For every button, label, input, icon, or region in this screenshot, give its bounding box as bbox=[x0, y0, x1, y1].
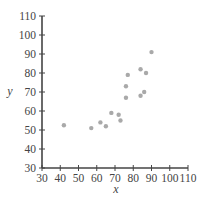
x-tick-label: 30 bbox=[36, 172, 48, 184]
y-tick-label: 100 bbox=[19, 29, 37, 41]
data-point bbox=[144, 71, 148, 75]
x-tick-label: 80 bbox=[128, 172, 140, 184]
y-tick-label: 40 bbox=[25, 143, 37, 155]
data-point bbox=[116, 113, 120, 117]
y-tick-label: 90 bbox=[25, 48, 37, 60]
scatter-chart: 30405060708090100110 3040506070809010011… bbox=[0, 0, 203, 202]
data-point bbox=[124, 84, 128, 88]
y-tick-label: 70 bbox=[25, 86, 37, 98]
data-point bbox=[98, 120, 102, 124]
x-tick-label: 40 bbox=[55, 172, 67, 184]
y-tick-label: 60 bbox=[25, 105, 37, 117]
x-tick-label: 90 bbox=[146, 172, 158, 184]
data-point bbox=[124, 96, 128, 100]
data-point bbox=[138, 94, 142, 98]
x-tick-label: 110 bbox=[180, 172, 197, 184]
x-tick-label: 50 bbox=[73, 172, 85, 184]
y-axis-ticks: 30405060708090100110 bbox=[19, 10, 45, 174]
x-tick-label: 60 bbox=[91, 172, 103, 184]
data-points bbox=[62, 50, 154, 130]
y-tick-label: 80 bbox=[25, 67, 37, 79]
data-point bbox=[104, 124, 108, 128]
data-point bbox=[126, 73, 130, 77]
data-point bbox=[118, 118, 122, 122]
data-point bbox=[62, 123, 66, 127]
data-point bbox=[89, 126, 93, 130]
x-axis-label: x bbox=[112, 182, 119, 196]
y-tick-label: 50 bbox=[25, 124, 37, 136]
data-point bbox=[138, 67, 142, 71]
y-axis-label: y bbox=[6, 84, 13, 98]
y-tick-label: 30 bbox=[25, 162, 37, 174]
data-point bbox=[109, 111, 113, 115]
axes bbox=[42, 16, 188, 168]
y-tick-label: 110 bbox=[19, 10, 36, 22]
data-point bbox=[142, 90, 146, 94]
data-point bbox=[149, 50, 153, 54]
x-tick-label: 100 bbox=[161, 172, 179, 184]
